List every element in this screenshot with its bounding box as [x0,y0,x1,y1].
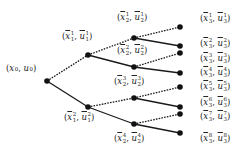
tree-node [177,24,183,30]
edge-dashed [88,98,134,107]
tree-node [177,130,183,136]
node-label: (x22, u22) [117,44,147,56]
edge-dashed [134,114,180,124]
tree-node [177,104,183,110]
node-label: (x73, u73) [200,110,230,122]
tree-node [131,95,137,101]
node-label: (x42, u42) [114,132,144,144]
node-label: (x0, u0) [6,64,36,73]
edge-solid [47,81,88,107]
node-label: (x11, u11) [62,30,92,42]
edge-solid [88,55,134,67]
tree-node [177,70,183,76]
tree-node [85,52,91,58]
tree-node [85,104,91,110]
tree-node [177,84,183,90]
tree-node [131,121,137,127]
node-label: (x83, u83) [200,132,230,144]
node-label: (x53, u53) [200,80,230,92]
node-label: (x43, u43) [200,66,230,78]
tree-node [177,50,183,56]
edge-solid [134,67,180,73]
tree-node [131,64,137,70]
node-label: (x21, u21) [64,111,94,123]
node-label: (x13, u13) [200,12,230,24]
edge-solid [88,107,134,124]
edge-dashed [134,87,180,98]
node-label: (x23, u23) [200,37,230,49]
tree-node [177,43,183,49]
tree-node [177,111,183,117]
edge-dashed [134,27,180,38]
tree-node [131,35,137,41]
node-label: (x33, u33) [200,52,230,64]
edge-dashed [47,55,88,81]
edge-solid [134,98,180,107]
tree-node [44,78,50,84]
node-label: (x32, u32) [114,75,144,87]
node-label: (x63, u63) [200,96,230,108]
node-label: (x12, u12) [117,11,147,23]
